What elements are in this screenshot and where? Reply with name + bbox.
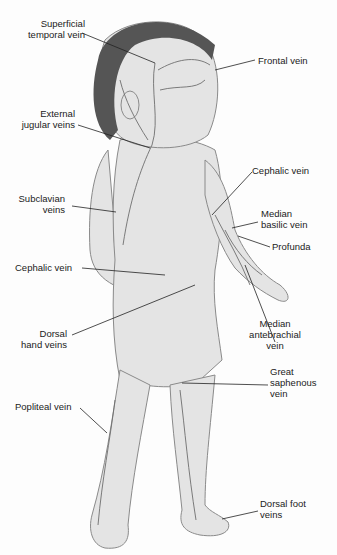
label-subclavian-veins: Subclavianveins: [5, 193, 65, 215]
label-median-antebrachial-vein: Medianantebrachialvein: [240, 318, 310, 351]
label-cephalic-vein-left: Cephalic vein: [15, 262, 72, 273]
label-popliteal-vein: Popliteal vein: [15, 401, 72, 412]
label-cephalic-vein-right: Cephalic vein: [252, 165, 309, 176]
label-dorsal-hand-veins: Dorsalhand veins: [5, 328, 67, 350]
label-profunda: Profunda: [272, 241, 311, 252]
infant-body-illustration: [0, 0, 337, 555]
vein-diagram: Superficialtemporal vein Frontal vein Ex…: [0, 0, 337, 555]
label-dorsal-foot-veins: Dorsal footveins: [260, 498, 306, 520]
label-superficial-temporal-vein: Superficialtemporal vein: [15, 18, 85, 40]
label-external-jugular-veins: Externaljugular veins: [10, 108, 75, 130]
label-great-saphenous-vein: Greatsaphenousvein: [270, 366, 316, 399]
label-frontal-vein: Frontal vein: [258, 55, 308, 66]
label-median-basilic-vein: Medianbasilic vein: [261, 208, 307, 230]
